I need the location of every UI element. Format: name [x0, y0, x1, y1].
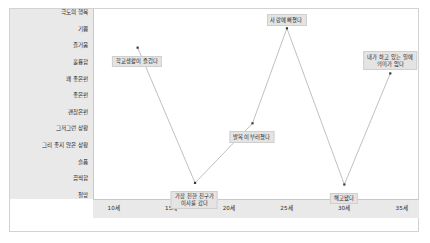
y-tick-label: 그리 좋지 않은 상황: [42, 142, 88, 149]
data-point-marker: [343, 183, 345, 185]
data-point-marker: [194, 182, 196, 184]
x-tick-label: 30세: [338, 204, 350, 212]
y-tick-label: 극도의 행복: [61, 9, 88, 16]
data-point-marker: [251, 122, 253, 124]
y-tick-label: 끔찍함: [73, 175, 88, 182]
annotation-callout: 내가 하고 있는 일에 의미가 없다: [363, 51, 417, 69]
y-tick-label: 슬픔: [78, 159, 88, 166]
y-tick-label: 꽤 좋은편: [66, 76, 88, 83]
y-tick-label: 기쁨: [78, 26, 88, 33]
x-tick-label: 20세: [223, 204, 235, 212]
annotation-callout: 가장 친한 친구가 이사를 갔다: [171, 191, 218, 209]
y-tick-label: 그저그런 상황: [56, 125, 88, 132]
annotation-callout: 해고됐다: [330, 193, 358, 205]
y-tick-label: 즐거움: [73, 42, 88, 49]
chart-screenshot: 극도의 행복기쁨즐거움훌륭함꽤 좋은편좋은편괜찮은편그저그런 상황그리 좋지 않…: [0, 0, 430, 243]
life-satisfaction-line-chart: [94, 9, 419, 199]
x-tick-label: 10세: [108, 204, 120, 212]
annotation-callout: 학교생활이 즐겁다: [112, 56, 162, 68]
data-point-marker: [389, 72, 391, 74]
series-line: [138, 28, 391, 184]
y-axis-tick-labels: 극도의 행복기쁨즐거움훌륭함꽤 좋은편좋은편괜찮은편그저그런 상황그리 좋지 않…: [10, 9, 93, 199]
data-point-marker: [137, 47, 139, 49]
annotation-callout: 발목이 부러졌다: [229, 131, 274, 143]
y-tick-label: 좋은편: [73, 92, 88, 99]
annotation-callout: 사랑에 빠졌다: [266, 14, 306, 26]
y-tick-label: 훌륭함: [73, 59, 88, 66]
y-tick-label: 괜찮은편: [68, 109, 88, 116]
x-tick-label: 35세: [396, 204, 408, 212]
x-axis-band: [93, 199, 419, 218]
data-point-marker: [286, 27, 288, 29]
x-tick-label: 25세: [280, 204, 292, 212]
plot-area: [93, 9, 419, 199]
y-tick-label: 절망: [78, 192, 88, 199]
